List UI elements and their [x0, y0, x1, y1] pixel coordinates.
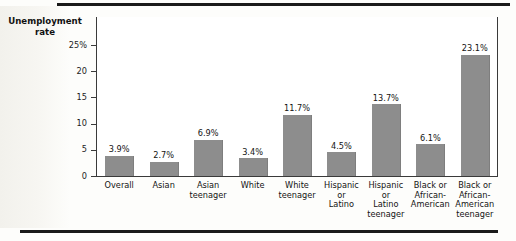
x-axis-category-label-line: Overall [97, 181, 141, 191]
bar-value-label: 6.9% [183, 128, 233, 138]
x-axis-category-label-line: teenager [364, 210, 408, 220]
y-axis-tick-label: 10 [52, 119, 87, 128]
x-axis-category-label-line: Asian [141, 181, 185, 191]
y-axis-title: Unemployment rate [0, 16, 90, 37]
y-axis-tick-label: 25% [52, 41, 87, 50]
bar-value-label: 11.7% [272, 103, 322, 113]
bar [327, 152, 356, 176]
y-axis-tick-label: 20 [52, 67, 87, 76]
x-axis-category-label-line: teenager [275, 191, 319, 201]
x-axis-line [96, 176, 497, 177]
x-axis-category-label: Overall [97, 181, 141, 191]
bar [416, 144, 445, 176]
x-axis-category-label: HispanicorLatino [319, 181, 363, 210]
plot-right-border [497, 17, 498, 177]
bottom-rule [20, 230, 498, 233]
x-axis-category-label: HispanicorLatinoteenager [364, 181, 408, 219]
x-axis-category-label: Whiteteenager [275, 181, 319, 200]
bar-value-label: 13.7% [361, 93, 411, 103]
y-axis-tick [91, 124, 97, 125]
bar-value-label: 3.4% [228, 147, 278, 157]
top-rule [57, 3, 510, 6]
bar-value-label: 3.9% [94, 144, 144, 154]
y-axis-title-line1: Unemployment [0, 16, 90, 27]
y-axis-tick [91, 71, 97, 72]
bar-value-label: 6.1% [405, 133, 455, 143]
y-axis-tick [91, 97, 97, 98]
x-axis-category-label-line: American [408, 200, 452, 210]
unemployment-rate-bar-chart: REVIEW Economics Unemployment rate 05101… [0, 0, 516, 241]
bar [372, 104, 401, 176]
x-axis-category-label: White [230, 181, 274, 191]
y-axis-tick [91, 45, 97, 46]
x-axis-category-label: Asian [141, 181, 185, 191]
x-axis-category-label-line: teenager [186, 191, 230, 201]
bar [194, 140, 223, 176]
y-axis-tick-label: 15 [52, 93, 87, 102]
bar [239, 158, 268, 176]
x-axis-category-label-line: Latino [319, 200, 363, 210]
x-axis-category-label-line: White [230, 181, 274, 191]
bar-value-label: 2.7% [139, 150, 189, 160]
y-axis-tick-label: 0 [52, 172, 87, 181]
x-axis-category-label: Black orAfrican-American [408, 181, 452, 210]
bar [105, 156, 134, 176]
bar-value-label: 4.5% [316, 141, 366, 151]
y-axis-tick-label: 5 [52, 145, 87, 154]
bar [283, 115, 312, 176]
bar [461, 55, 490, 176]
x-axis-category-label: Asianteenager [186, 181, 230, 200]
bar [150, 162, 179, 176]
x-axis-category-label: Black orAfrican-Americanteenager [453, 181, 497, 219]
y-axis-title-line2: rate [0, 27, 90, 38]
x-axis-category-label-line: teenager [453, 210, 497, 220]
y-axis-tick [91, 176, 97, 177]
bar-value-label: 23.1% [450, 43, 500, 53]
page-bleed-shading [0, 6, 70, 228]
